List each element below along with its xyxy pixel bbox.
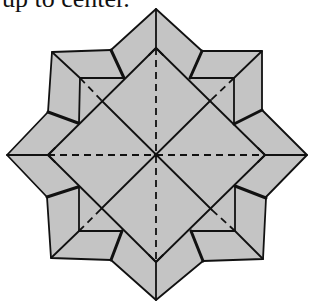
origami-star-diagram [0, 0, 316, 308]
center-point [154, 153, 158, 157]
